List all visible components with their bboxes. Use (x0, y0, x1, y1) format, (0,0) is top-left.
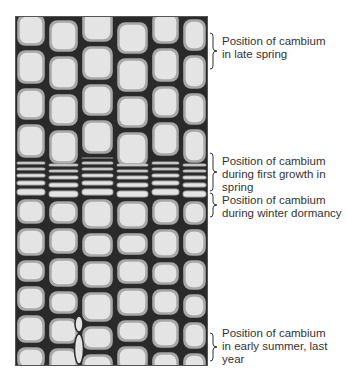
curly-bracket-icon (209, 192, 219, 218)
label-winter-dormancy: Position of cambium during winter dorman… (222, 194, 347, 220)
curly-bracket-icon (209, 32, 219, 70)
curly-bracket-icon (209, 152, 219, 192)
bracket-first-growth (209, 152, 219, 192)
label-first-growth: Position of cambium during first growth … (222, 155, 347, 194)
label-early-summer: Position of cambium in early summer, las… (222, 327, 347, 366)
cell-grid-illustration (15, 16, 208, 366)
cambium-cell-micrograph (15, 16, 208, 366)
curly-bracket-icon (209, 332, 219, 362)
bracket-late-spring (209, 32, 219, 70)
bracket-early-summer (209, 332, 219, 362)
label-late-spring: Position of cambium in late spring (222, 35, 347, 61)
bracket-winter-dormancy (209, 192, 219, 218)
